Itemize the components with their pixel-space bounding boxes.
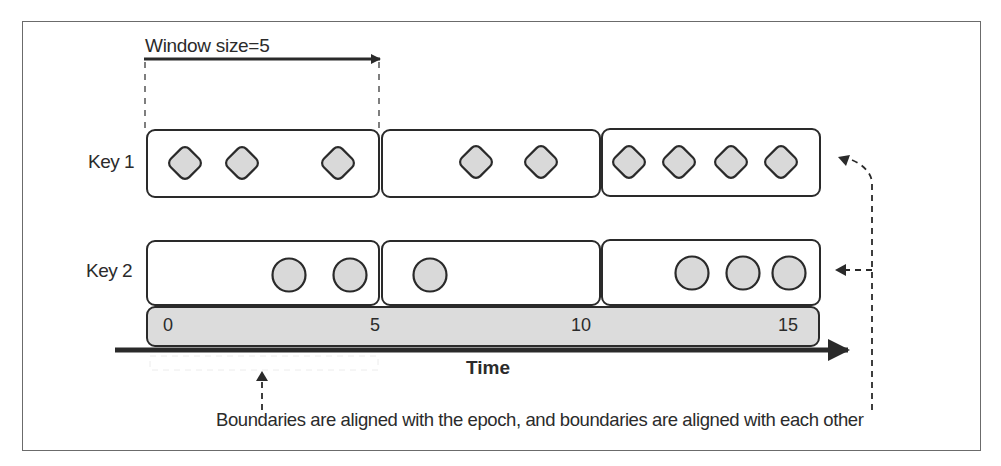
key2-label: Key 2 xyxy=(86,260,132,282)
tick-10: 10 xyxy=(571,315,591,336)
time-axis-label: Time xyxy=(466,357,510,379)
event-circle xyxy=(727,257,760,290)
key1-label: Key 1 xyxy=(88,151,134,173)
window-size-label: Window size=5 xyxy=(145,35,269,57)
arrowhead-key1 xyxy=(838,155,850,166)
arrowhead-key2 xyxy=(835,264,846,276)
event-circle xyxy=(334,259,367,292)
timeline-bar xyxy=(147,307,819,346)
tick-5: 5 xyxy=(370,315,380,336)
tick-0: 0 xyxy=(163,315,173,336)
event-circle xyxy=(773,257,806,290)
event-circle xyxy=(676,257,709,290)
faint-window-outline xyxy=(150,356,378,370)
alignment-pointer xyxy=(846,160,872,410)
key2-windows xyxy=(147,240,820,305)
tumbling-window-diagram xyxy=(0,0,1001,466)
window-size-arrow xyxy=(144,59,380,132)
tick-15: 15 xyxy=(778,315,798,336)
figure-caption: Boundaries are aligned with the epoch, a… xyxy=(216,409,863,431)
event-circle xyxy=(273,259,306,292)
event-circle xyxy=(414,259,447,292)
epoch-boundary-pointer xyxy=(256,371,268,410)
